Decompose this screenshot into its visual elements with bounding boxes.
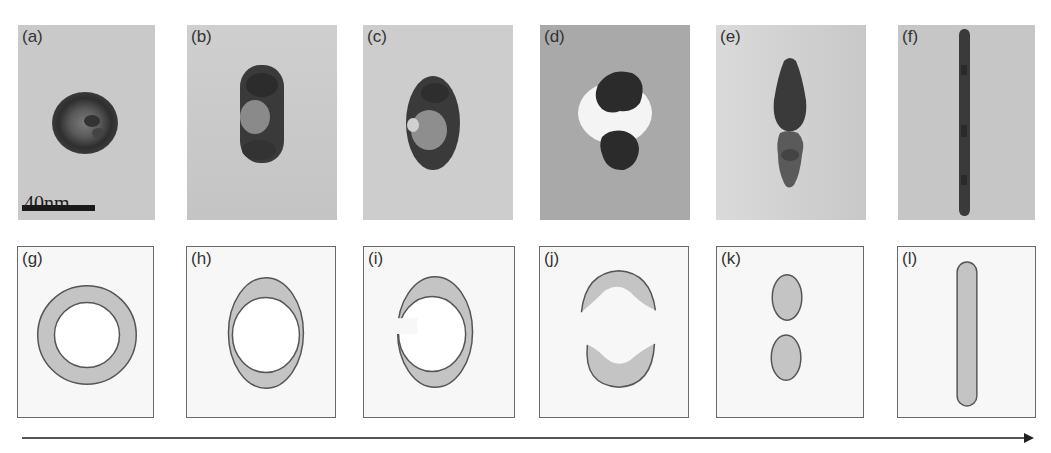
panel-label: (a)	[22, 28, 43, 45]
schematic-panel-j: (j)	[539, 246, 689, 418]
panel-label: (k)	[721, 250, 741, 267]
split-particle-image	[540, 25, 690, 220]
tem-panel-b: (b)	[187, 25, 337, 220]
panel-label: (j)	[544, 250, 559, 267]
schematic-panel-k: (k)	[716, 246, 864, 418]
panel-label: (g)	[22, 250, 43, 267]
tem-panel-d: (d)	[540, 25, 690, 220]
ring-shape	[18, 247, 153, 417]
two-caps-shape	[540, 247, 688, 417]
arrow-head-icon	[1024, 433, 1034, 443]
panel-label: (e)	[720, 28, 741, 45]
open-shell-particle-image	[363, 25, 513, 220]
fused-particles-image	[716, 25, 866, 220]
tem-panel-f: (f)	[898, 25, 1035, 220]
schematic-panel-i: (i)	[363, 246, 515, 418]
tem-panel-c: (c)	[363, 25, 513, 220]
open-ring-shape	[364, 247, 514, 417]
panel-label: (d)	[544, 28, 565, 45]
panel-label: (f)	[902, 28, 918, 45]
scale-bar	[22, 205, 95, 211]
panel-label: (l)	[902, 250, 917, 267]
tem-panel-e: (e)	[716, 25, 866, 220]
elongated-particle-image	[187, 25, 337, 220]
elliptical-ring-shape	[187, 247, 335, 417]
sphere-particle-image	[18, 25, 155, 220]
panel-label: (b)	[191, 28, 212, 45]
progression-arrow-line	[22, 437, 1032, 439]
panel-label: (i)	[368, 250, 383, 267]
schematic-panel-g: (g)	[17, 246, 154, 418]
panel-label: (h)	[191, 250, 212, 267]
nanorod-image	[898, 25, 1035, 220]
scale-bar-label: 40nm	[24, 192, 70, 215]
schematic-panel-h: (h)	[186, 246, 336, 418]
rod-shape	[898, 247, 1035, 417]
schematic-panel-l: (l)	[897, 246, 1036, 418]
two-ellipses-shape	[717, 247, 863, 417]
tem-panel-a: (a) 40nm	[18, 25, 155, 220]
panel-label: (c)	[367, 28, 387, 45]
